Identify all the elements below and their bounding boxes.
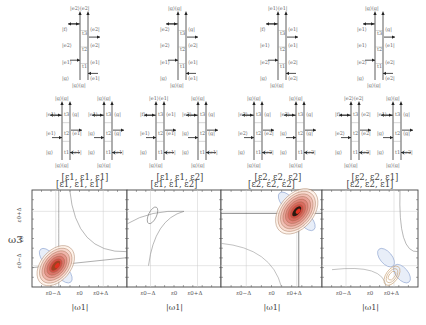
- diagram-left-state: |f⟩: [335, 111, 341, 117]
- diagram-time-label: t2: [180, 46, 185, 52]
- diagram-top-state: |g⟩⟨g|: [55, 95, 69, 101]
- diagram-left-state: |e2⟩: [357, 59, 367, 65]
- diagram-time-label: t1: [82, 63, 87, 69]
- diagram-left-state: |g⟩: [280, 130, 287, 136]
- diagram-right-state: ⟨g|: [114, 130, 121, 136]
- diagram-time-label: t1: [353, 149, 358, 155]
- diagram-left-state: |g⟩: [182, 149, 189, 155]
- diagram-time-label: t1: [395, 149, 400, 155]
- diagram-left-state: |g⟩: [357, 75, 364, 81]
- diagram-right-state: ⟨g|: [306, 111, 313, 117]
- diagram-right-state: ⟨e1|: [188, 59, 198, 65]
- diagram-right-state: ⟨e1|: [188, 75, 198, 81]
- diagram-left-state: |g⟩: [88, 130, 95, 136]
- diagram-right-state: ⟨e2|: [188, 42, 198, 48]
- diagram-left-state: |g⟩: [335, 149, 342, 155]
- diagram-right-state: ⟨e2|: [90, 26, 100, 32]
- diagram-bottom-state: |g⟩⟨g|: [289, 162, 303, 168]
- diagram-right-state: ⟨e1|: [385, 42, 395, 48]
- diagram-right-state: ⟨g|: [208, 111, 215, 117]
- diagram-time-label: t2: [256, 130, 261, 136]
- diagram-bottom-state: |g⟩⟨g|: [170, 82, 184, 88]
- diagram-time-label: t1: [280, 63, 285, 69]
- diagram-right-state: ⟨e2|: [90, 42, 100, 48]
- diagram-time-label: t3: [158, 111, 163, 117]
- diagram-left-state: |f⟩: [62, 26, 68, 32]
- diagram-time-label: t3: [256, 111, 261, 117]
- diagram-right-state: ⟨e1|: [288, 26, 298, 32]
- diagram-right-state: ⟨e1|: [114, 149, 124, 155]
- diagram-right-state: ⟨g|: [306, 130, 313, 136]
- diagram-right-state: ⟨e2|: [264, 149, 274, 155]
- diagram-left-state: |e1⟩: [260, 42, 270, 48]
- diagram-bottom-state: |g⟩⟨g|: [386, 162, 400, 168]
- diagram-left-state: |e2⟩: [238, 130, 248, 136]
- diagram-right-state: ⟨e1|: [166, 149, 176, 155]
- diagram-time-label: t2: [106, 130, 111, 136]
- diagram-left-state: |e1⟩: [140, 130, 150, 136]
- diagram-time-label: t1: [298, 149, 303, 155]
- diagram-right-state: ⟨e2|: [306, 149, 316, 155]
- diagram-left-state: |g⟩: [182, 130, 189, 136]
- diagram-bottom-state: |g⟩⟨g|: [344, 162, 358, 168]
- diagram-bottom-state: |g⟩⟨g|: [247, 162, 261, 168]
- diagram-right-state: ⟨e1|: [166, 130, 176, 136]
- diagram-left-state: |g⟩: [62, 75, 69, 81]
- diagram-left-state: |e2⟩: [260, 59, 270, 65]
- diagram-time-label: t3: [180, 30, 185, 36]
- diagram-time-label: t2: [353, 130, 358, 136]
- diagram-right-state: ⟨g|: [385, 26, 392, 32]
- diagram-time-label: t3: [353, 111, 358, 117]
- diagram-time-label: t1: [180, 63, 185, 69]
- diagram-left-state: |g⟩: [88, 149, 95, 155]
- diagram-left-state: |e2⟩: [160, 26, 170, 32]
- diagram-time-label: t1: [64, 149, 69, 155]
- diagram-right-state: ⟨e1|: [166, 111, 176, 117]
- diagram-bottom-state: |g⟩⟨g|: [97, 162, 111, 168]
- diagram-top-state: |g⟩⟨g|: [247, 95, 261, 101]
- diagram-right-state: ⟨e1|: [288, 42, 298, 48]
- diagram-bottom-state: |g⟩⟨g|: [367, 82, 381, 88]
- diagram-time-label: t3: [64, 111, 69, 117]
- diagram-left-state: |e2⟩: [335, 130, 345, 136]
- diagram-time-label: t1: [256, 149, 261, 155]
- diagram-time-label: t2: [395, 130, 400, 136]
- diagram-bottom-state: |g⟩⟨g|: [270, 82, 284, 88]
- diagram-right-state: ⟨e1|: [208, 149, 218, 155]
- diagram-time-label: t3: [200, 111, 205, 117]
- diagram-left-state: |g⟩: [46, 149, 53, 155]
- diagram-left-state: |e2⟩: [280, 111, 290, 117]
- diagram-right-state: ⟨e2|: [361, 111, 371, 117]
- diagram-left-state: |e2⟩: [62, 42, 72, 48]
- diagram-top-state: |e2⟩⟨e2|: [344, 95, 364, 101]
- diagram-left-state: |e2⟩: [182, 111, 192, 117]
- diagram-left-state: |e2⟩: [160, 42, 170, 48]
- diagram-time-label: t1: [158, 149, 163, 155]
- diagram-top-state: |e1⟩⟨e1|: [268, 5, 288, 11]
- diagram-right-state: ⟨g|: [403, 130, 410, 136]
- diagram-left-state: |g⟩: [140, 149, 147, 155]
- diagram-right-state: ⟨e2|: [361, 130, 371, 136]
- diagram-time-label: t3: [106, 111, 111, 117]
- diagram-left-state: |e1⟩: [46, 130, 56, 136]
- diagram-right-state: ⟨e2|: [385, 59, 395, 65]
- diagram-right-state: ⟨g|: [208, 130, 215, 136]
- diagram-time-label: t2: [280, 46, 285, 52]
- diagram-left-state: |f⟩: [260, 26, 266, 32]
- diagram-top-state: |g⟩⟨g|: [289, 95, 303, 101]
- diagram-left-state: |e1⟩: [357, 26, 367, 32]
- diagram-time-label: t2: [298, 130, 303, 136]
- diagram-right-state: ⟨e2|: [385, 75, 395, 81]
- diagram-left-state: |g⟩: [260, 75, 267, 81]
- diagram-left-state: |g⟩: [280, 149, 287, 155]
- diagram-left-state: |g⟩: [160, 75, 167, 81]
- diagram-left-state: |e1⟩: [377, 111, 387, 117]
- diagram-left-state: |e2⟩: [238, 111, 248, 117]
- diagram-right-state: ⟨g|: [264, 111, 271, 117]
- diagram-top-state: |e2⟩⟨e2|: [70, 5, 90, 11]
- diagram-bottom-state: |g⟩⟨g|: [55, 162, 69, 168]
- diagram-top-state: |g⟩⟨g|: [365, 5, 379, 11]
- diagram-left-state: |e1⟩: [46, 111, 56, 117]
- diagram-left-state: |g⟩: [377, 149, 384, 155]
- diagram-left-state: |e1⟩: [62, 59, 72, 65]
